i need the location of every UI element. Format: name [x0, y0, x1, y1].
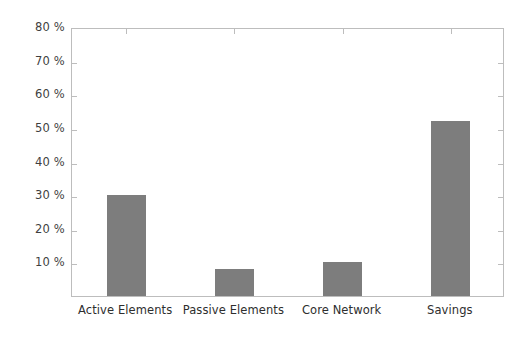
y-axis-tick-mark	[72, 197, 77, 198]
y-axis-tick-label: 50 %	[1, 123, 65, 135]
y-axis-tick-mark-right	[498, 164, 503, 165]
x-axis-tick-label: Core Network	[302, 303, 382, 317]
y-axis-tick-mark	[72, 96, 77, 97]
y-axis-tick-label: 80 %	[1, 22, 65, 34]
y-axis-tick-mark-right	[498, 63, 503, 64]
y-axis-tick-label: 70 %	[1, 56, 65, 68]
y-axis-tick-mark-right	[498, 96, 503, 97]
y-axis-tick-mark-right	[498, 130, 503, 131]
y-axis-tick-mark-right	[498, 264, 503, 265]
y-axis: 10 %20 %30 %40 %50 %60 %70 %80 %	[0, 0, 65, 341]
x-axis-tick-label: Active Elements	[78, 303, 172, 317]
y-axis-tick-label: 40 %	[1, 157, 65, 169]
bar	[323, 262, 362, 296]
y-axis-tick-label: 60 %	[1, 90, 65, 102]
y-axis-tick-label: 20 %	[1, 224, 65, 236]
x-axis-tick-mark-top	[343, 29, 344, 34]
bar	[215, 269, 254, 296]
x-axis-tick-mark-top	[234, 29, 235, 34]
x-axis: Active ElementsPassive ElementsCore Netw…	[0, 303, 532, 327]
bar	[107, 195, 146, 296]
y-axis-tick-mark	[72, 231, 77, 232]
x-axis-tick-label: Savings	[427, 303, 473, 317]
y-axis-tick-label: 30 %	[1, 190, 65, 202]
x-axis-tick-mark-top	[451, 29, 452, 34]
plot-area	[71, 28, 504, 297]
y-axis-tick-mark	[72, 130, 77, 131]
y-axis-tick-mark	[72, 63, 77, 64]
y-axis-tick-mark-right	[498, 197, 503, 198]
y-axis-tick-mark-right	[498, 231, 503, 232]
x-axis-tick-label: Passive Elements	[183, 303, 284, 317]
bar-chart-figure: 10 %20 %30 %40 %50 %60 %70 %80 % Active …	[0, 0, 532, 341]
y-axis-tick-label: 10 %	[1, 258, 65, 270]
x-axis-tick-mark-top	[126, 29, 127, 34]
bar	[431, 121, 470, 296]
y-axis-tick-mark	[72, 264, 77, 265]
y-axis-tick-mark	[72, 164, 77, 165]
